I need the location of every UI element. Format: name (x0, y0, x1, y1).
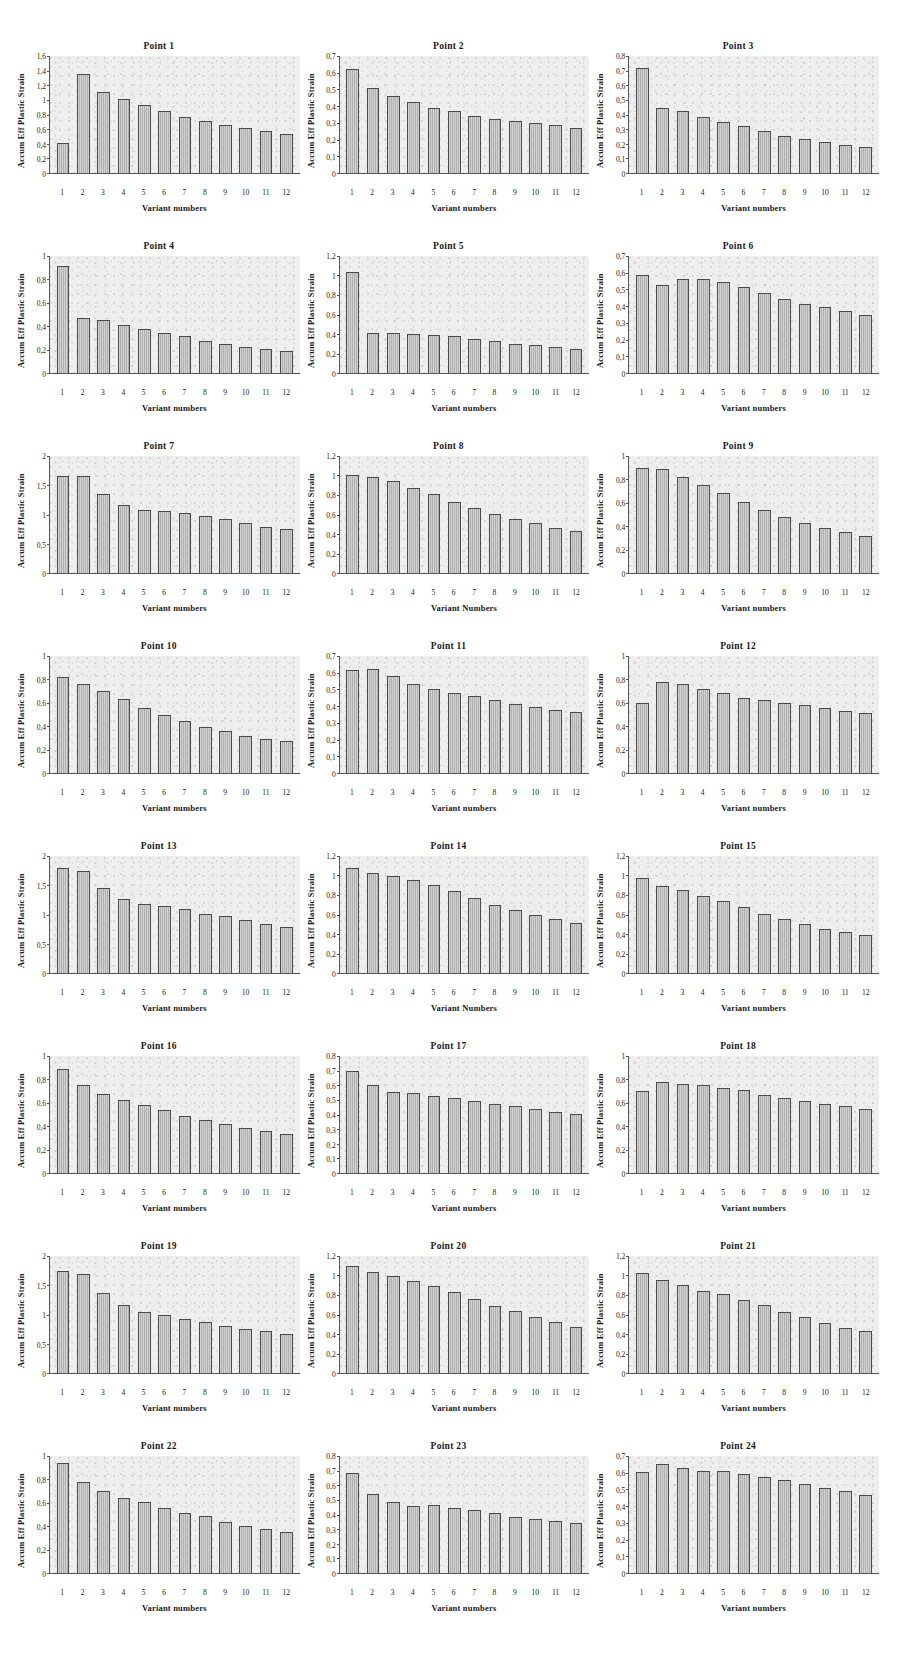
x-tick-label: 5 (427, 788, 440, 797)
bar (158, 906, 171, 973)
x-tick-label: 2 (76, 788, 89, 797)
bar-series (53, 1456, 297, 1573)
bar (778, 1312, 791, 1373)
x-axis-label: Variant numbers (628, 1603, 879, 1613)
y-tick-label: 0,7 (616, 66, 625, 75)
bar (697, 1085, 710, 1173)
y-axis-ticks: 00,20,40,60,811,2 (606, 1256, 628, 1374)
x-tick-label: 10 (239, 988, 252, 997)
x-tick-label: 1 (635, 388, 648, 397)
x-tick-label: 6 (158, 1188, 171, 1197)
bar (489, 1306, 502, 1373)
x-tick-label: 3 (676, 188, 689, 197)
bar (138, 904, 151, 973)
x-tick-label: 4 (407, 788, 420, 797)
bar-series (343, 256, 587, 373)
x-axis-ticks: 123456789101112 (628, 386, 879, 399)
x-tick-label: 6 (158, 588, 171, 597)
bar (758, 914, 771, 973)
bar (489, 119, 502, 173)
y-tick-mark (337, 315, 340, 316)
x-tick-label: 7 (757, 988, 770, 997)
y-tick-label: 0,8 (37, 275, 46, 284)
chart-panel: Point 15Accum Eff Plastic Strain00,20,40… (593, 840, 883, 1040)
plot-canvas (628, 56, 883, 174)
bar (839, 1106, 852, 1173)
chart-title: Point 1 (14, 40, 304, 52)
bar-series (343, 656, 587, 773)
y-tick-mark (337, 1500, 340, 1501)
y-tick-label: 0,2 (326, 1540, 335, 1549)
y-tick-mark (337, 1354, 340, 1355)
x-tick-label: 9 (219, 1588, 232, 1597)
x-tick-label: 6 (737, 988, 750, 997)
x-tick-label: 8 (488, 1588, 501, 1597)
x-tick-label: 7 (757, 1188, 770, 1197)
bar (367, 1494, 380, 1573)
x-tick-label: 2 (76, 188, 89, 197)
y-tick-mark (337, 1295, 340, 1296)
bar (778, 703, 791, 773)
x-tick-label: 3 (676, 588, 689, 597)
x-tick-label: 4 (696, 588, 709, 597)
bar (758, 1095, 771, 1173)
y-tick-mark (47, 56, 50, 57)
y-tick-mark (337, 1315, 340, 1316)
bar (839, 711, 852, 773)
y-tick-mark (47, 71, 50, 72)
x-tick-label: 9 (508, 1388, 521, 1397)
y-tick-label: 0,4 (326, 102, 335, 111)
y-tick-mark (47, 1373, 50, 1374)
x-tick-label: 10 (529, 388, 542, 397)
y-axis-label: Accum Eff Plastic Strain (14, 656, 27, 786)
x-tick-label: 7 (178, 988, 191, 997)
y-tick-label: 0,8 (616, 1075, 625, 1084)
y-tick-label: 0,8 (326, 1452, 335, 1461)
bar (529, 915, 542, 974)
x-tick-label: 7 (178, 1188, 191, 1197)
x-tick-label: 11 (549, 588, 562, 597)
x-axis-label: Variant numbers (628, 203, 879, 213)
bar (260, 1131, 273, 1173)
y-tick-mark (337, 934, 340, 935)
bar (489, 905, 502, 973)
bar (656, 886, 669, 973)
bar (819, 1488, 832, 1573)
x-tick-label: 1 (345, 788, 358, 797)
bar (57, 1271, 70, 1373)
bar (138, 329, 151, 373)
x-tick-label: 6 (158, 1588, 171, 1597)
x-tick-label: 7 (178, 788, 191, 797)
y-tick-label: 2 (42, 452, 46, 461)
y-axis-ticks: 00,20,40,60,81 (606, 1056, 628, 1174)
x-tick-label: 10 (819, 988, 832, 997)
x-tick-label: 10 (819, 1188, 832, 1197)
bar (428, 1096, 441, 1174)
x-tick-label: 11 (839, 1388, 852, 1397)
chart-title: Point 21 (593, 1240, 883, 1252)
x-tick-label: 2 (656, 1188, 669, 1197)
x-tick-label: 2 (366, 988, 379, 997)
y-tick-label: 0 (622, 770, 626, 779)
y-tick-mark (626, 875, 629, 876)
x-tick-label: 2 (76, 388, 89, 397)
x-tick-label: 12 (570, 988, 583, 997)
plot-area: Accum Eff Plastic Strain00,20,40,60,811,… (304, 256, 594, 386)
chart-title: Point 19 (14, 1240, 304, 1252)
chart-panel: Point 13Accum Eff Plastic Strain00,511,5… (14, 840, 304, 1040)
y-tick-label: 0 (622, 1170, 626, 1179)
x-axis-label: Variant numbers (339, 1403, 590, 1413)
plot-area: Accum Eff Plastic Strain00,10,20,30,40,5… (304, 1456, 594, 1586)
y-tick-label: 0,6 (326, 1081, 335, 1090)
x-tick-label: 5 (137, 188, 150, 197)
plot-canvas (339, 656, 594, 774)
y-tick-label: 0,4 (616, 722, 625, 731)
y-tick-label: 0,6 (37, 699, 46, 708)
y-tick-mark (337, 915, 340, 916)
y-tick-label: 0 (42, 970, 46, 979)
x-tick-label: 10 (819, 788, 832, 797)
y-tick-label: 0,2 (326, 736, 335, 745)
bar (260, 1331, 273, 1373)
y-tick-label: 0,6 (616, 268, 625, 277)
x-tick-label: 3 (97, 1588, 110, 1597)
